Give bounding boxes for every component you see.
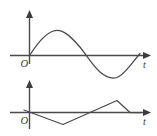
bottom-panel-triangular-waveform: O t bbox=[10, 80, 151, 129]
top-panel-x-axis-arrowhead bbox=[143, 52, 151, 59]
top-panel-origin-label: O bbox=[21, 58, 29, 69]
bottom-panel-y-axis-arrowhead bbox=[26, 80, 33, 88]
figure-container: O t O t bbox=[0, 0, 157, 136]
bottom-panel-x-axis-label: t bbox=[143, 116, 146, 127]
top-panel-sine-waveform: O t bbox=[10, 10, 151, 78]
top-panel-y-axis-arrowhead bbox=[26, 10, 33, 18]
bottom-panel-origin-label: O bbox=[21, 115, 29, 126]
top-panel-x-axis-label: t bbox=[143, 59, 146, 70]
bottom-panel-x-axis-arrowhead bbox=[143, 109, 151, 116]
sine-waveform-curve bbox=[30, 30, 141, 78]
waveform-figure-svg: O t O t bbox=[0, 0, 157, 136]
